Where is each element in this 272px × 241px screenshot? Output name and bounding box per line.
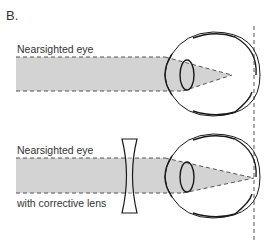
retina-lower xyxy=(193,92,252,115)
bottom-label-line2: with corrective lens xyxy=(17,197,106,209)
retina-lower-corrected xyxy=(193,194,252,217)
bottom-label-line1: Nearsighted eye xyxy=(17,144,93,156)
light-beam-corrected xyxy=(16,158,254,193)
top-label: Nearsighted eye xyxy=(17,43,93,55)
